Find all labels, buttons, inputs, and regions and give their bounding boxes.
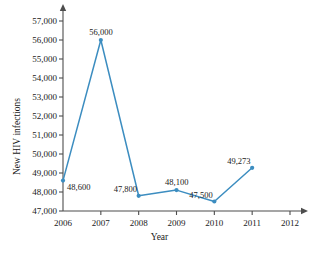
y-axis-tick-label: 54,000 (14, 73, 57, 83)
data-point-label: 47,500 (189, 190, 212, 200)
y-axis-tick-label: 48,000 (14, 187, 57, 197)
data-point-label: 56,000 (89, 27, 112, 37)
data-point-label: 48,100 (165, 177, 188, 187)
y-axis-tick-label: 55,000 (14, 54, 57, 64)
y-axis-tick-label: 50,000 (14, 149, 57, 159)
data-point-marker (212, 199, 216, 203)
data-point-label: 48,600 (67, 182, 90, 192)
x-axis-tick-label: 2007 (92, 218, 110, 228)
x-axis-tick-label: 2012 (281, 218, 299, 228)
data-series-line (63, 40, 252, 202)
x-axis-arrowhead (301, 208, 308, 214)
x-axis-tick-label: 2006 (54, 218, 72, 228)
y-axis-tick-label: 49,000 (14, 168, 57, 178)
x-axis-ticks (101, 211, 290, 215)
hiv-infections-line-chart: New HIV infections Year 47,00048,00049,0… (0, 0, 319, 253)
y-axis-tick-label: 56,000 (14, 35, 57, 45)
x-axis-tick-label: 2008 (130, 218, 148, 228)
data-point-marker (174, 188, 178, 192)
data-point-marker (137, 194, 141, 198)
data-point-marker (99, 38, 103, 42)
x-axis-title: Year (0, 232, 319, 242)
data-point-label: 47,800 (114, 184, 137, 194)
x-axis-tick-label: 2009 (168, 218, 186, 228)
data-point-marker (250, 166, 254, 170)
y-axis-tick-label: 51,000 (14, 130, 57, 140)
x-axis-tick-label: 2010 (205, 218, 223, 228)
y-axis-arrowhead (60, 4, 66, 11)
y-axis-tick-label: 47,000 (14, 206, 57, 216)
x-axis-tick-label: 2011 (243, 218, 261, 228)
data-point-label: 49,273 (227, 156, 250, 166)
y-axis-tick-label: 52,000 (14, 111, 57, 121)
data-point-marker (61, 179, 65, 183)
y-axis-tick-label: 57,000 (14, 16, 57, 26)
data-point-markers (61, 38, 254, 204)
y-axis-tick-label: 53,000 (14, 92, 57, 102)
